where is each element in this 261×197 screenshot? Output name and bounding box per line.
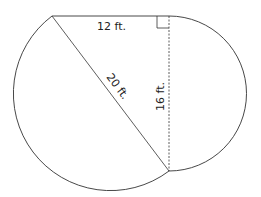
hypotenuse-length-label: 20 ft. [104,71,132,102]
right-angle-marker [157,16,169,28]
left-semicircle-arc [13,16,169,191]
vertical-length-label: 16 ft. [154,82,167,111]
composite-figure: 12 ft. 20 ft. 16 ft. [0,0,261,197]
top-length-label: 12 ft. [97,20,126,33]
right-semicircle-arc [169,16,247,171]
hypotenuse-line [52,16,169,171]
